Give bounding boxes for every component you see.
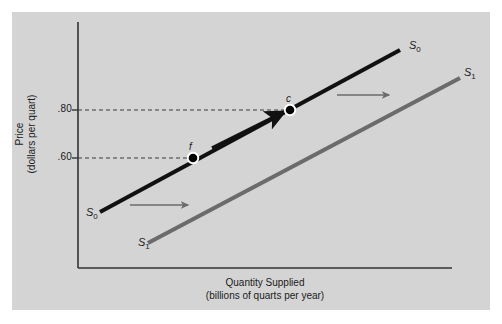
axis-lines [78, 22, 452, 268]
data-point-c [284, 104, 296, 116]
y-axis-title-line2: (dollars per quart) [26, 74, 38, 194]
movement-along-curve-arrow [212, 112, 284, 148]
y-axis-tick-label-high: .80 [42, 103, 72, 114]
supply-curve-figure: .80 .60 Price (dollars per quart) Quanti… [0, 0, 502, 324]
y-axis-title-line1: Price [14, 74, 26, 194]
curve-label-s0-top: S0 [409, 39, 421, 54]
y-axis-title: Price (dollars per quart) [14, 74, 38, 194]
y-axis-ticks [72, 110, 78, 158]
x-axis-title-line2: (billions of quarts per year) [140, 289, 390, 302]
curve-label-s1-bottom-subscript: 1 [145, 242, 149, 251]
dashed-leader-lines [78, 110, 288, 158]
curve-label-s0-bottom: S0 [86, 206, 98, 221]
curve-label-s1-top: S1 [464, 66, 476, 81]
data-point-label-c: c [286, 93, 291, 104]
curve-label-s1-top-subscript: 1 [471, 72, 475, 81]
curve-label-s0-bottom-subscript: 0 [93, 212, 97, 221]
curve-label-s0-top-subscript: 0 [416, 45, 420, 54]
data-point-f [187, 152, 199, 164]
curve-label-s1-bottom: S1 [138, 236, 150, 251]
x-axis-title: Quantity Supplied (billions of quarts pe… [140, 276, 390, 302]
x-axis-title-line1: Quantity Supplied [140, 276, 390, 289]
data-point-label-f: f [189, 141, 192, 152]
y-axis-tick-label-low: .60 [42, 151, 72, 162]
